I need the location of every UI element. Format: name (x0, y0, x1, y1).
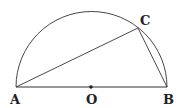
label-b: B (163, 92, 174, 107)
label-a: A (9, 92, 21, 107)
geometry-diagram: A O B C (0, 0, 181, 108)
label-c: C (140, 13, 150, 28)
chord-ac (16, 28, 138, 87)
chord-cb (138, 28, 167, 87)
center-point-o (89, 85, 93, 89)
label-o: O (86, 92, 97, 107)
